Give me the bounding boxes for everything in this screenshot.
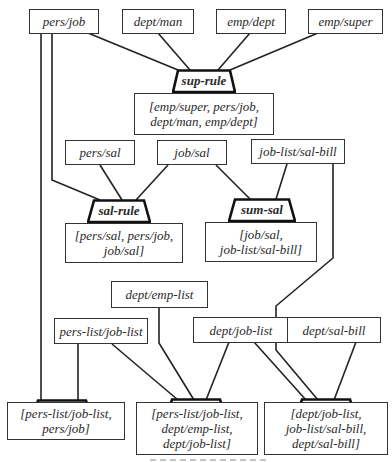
- result-line: dept/emp-list,: [161, 421, 232, 436]
- rule-result-sup-rule: [emp/super, pers/job, dept/man, emp/dept…: [134, 93, 274, 135]
- rule-label: sum-sal: [241, 202, 283, 218]
- relation-label: dept/emp-list: [126, 287, 194, 302]
- edge-job-list-sal-bill-to-sum-sal: [276, 164, 287, 199]
- relation-label: pers/job: [43, 14, 86, 29]
- edge-dept-job-list-to-dep-job: [206, 342, 229, 400]
- result-line: [dept/job-list,: [290, 406, 361, 421]
- edge-job-sal-to-sal-rule: [136, 165, 168, 200]
- result-line: [pers/sal, pers/job,: [75, 228, 174, 243]
- rule-sal-rule: sal-rule: [87, 199, 151, 223]
- edge-job-sal-to-sum-sal: [216, 165, 250, 199]
- relation-label: job/sal: [174, 145, 209, 160]
- result-line: dept/sal-bill]: [292, 436, 360, 451]
- rule-result-list-job: [pers-list/job-list, pers/job]: [7, 402, 125, 440]
- relation-dept-man: dept/man: [122, 9, 194, 34]
- rule-result-sum-sal: [job/sal, job-list/sal-bill]: [205, 222, 317, 262]
- rule-result-dep-job: [pers-list/job-list, dept/emp-list, dept…: [136, 402, 258, 455]
- rule-sum-sal: sum-sal: [228, 198, 296, 222]
- rule-sup-rule: sup-rule: [172, 69, 236, 93]
- rule-label: sup-rule: [182, 73, 227, 89]
- relation-dept-emp-list: dept/emp-list: [111, 281, 208, 308]
- relation-pers-sal: pers/sal: [65, 140, 135, 165]
- relation-emp-dept: emp/dept: [216, 9, 286, 34]
- result-line: job/sal]: [104, 243, 144, 258]
- relation-label: job-list/sal-bill: [259, 144, 336, 159]
- clipped-caption-fragment: [150, 456, 270, 462]
- edge-pers-job-to-sal-rule: [52, 34, 100, 200]
- result-line: dept/job-list]: [163, 436, 231, 451]
- relation-pers-list-job-list: pers-list/job-list: [54, 318, 148, 344]
- result-line: job-list/sal-bill]: [220, 242, 302, 257]
- relation-label: dept/sal-bill: [303, 323, 366, 338]
- result-line: [pers-list/job-list,: [20, 406, 111, 421]
- relation-label: pers/sal: [79, 145, 120, 160]
- relation-label: pers-list/job-list: [59, 324, 142, 339]
- result-line: [job/sal,: [239, 227, 283, 242]
- edge-dept-emp-list-to-dep-job: [159, 307, 194, 400]
- relation-job-sal: job/sal: [157, 140, 227, 165]
- result-line: [emp/super, pers/job,: [149, 99, 259, 114]
- edge-emp-super-to-sup-rule: [230, 33, 318, 70]
- relation-label: emp/super: [318, 14, 372, 29]
- edge-pers-job-to-sup-rule: [88, 33, 178, 70]
- relation-label: dept/man: [134, 14, 182, 29]
- relation-pers-job: pers/job: [29, 9, 99, 34]
- relation-label: emp/dept: [227, 14, 275, 29]
- relation-dept-sal-bill: dept/sal-bill: [287, 317, 381, 343]
- edge-dept-sal-bill-to-dep-sal: [334, 342, 356, 400]
- edge-pers-sal-to-sal-rule: [100, 165, 122, 200]
- result-line: job-list/sal-bill,: [286, 421, 367, 436]
- result-line: pers/job]: [42, 421, 90, 436]
- rule-result-sal-rule: [pers/sal, pers/job, job/sal]: [65, 223, 183, 263]
- edge-dept-job-list-to-dep-sal: [254, 342, 306, 400]
- relation-dept-job-list: dept/job-list: [193, 317, 289, 343]
- relation-job-list-sal-bill: job-list/sal-bill: [251, 139, 345, 164]
- result-line: dept/man, emp/dept]: [150, 114, 258, 129]
- edge-pers-list-job-list-to-dep-job: [112, 344, 178, 400]
- rule-label: sal-rule: [98, 203, 139, 219]
- result-line: [pers-list/job-list,: [151, 406, 242, 421]
- relation-emp-super: emp/super: [308, 9, 383, 34]
- rule-result-dep-sal: [dept/job-list, job-list/sal-bill, dept/…: [264, 402, 388, 455]
- relation-label: dept/job-list: [210, 323, 273, 338]
